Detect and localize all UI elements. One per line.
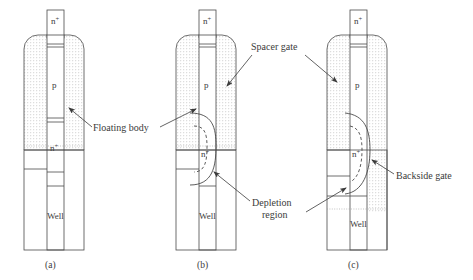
figure-container: n+ p n+ Well (a)	[0, 0, 473, 280]
callout-depletion-region-label-line1: Depletion	[252, 197, 291, 208]
panel-a-top-contact: n+	[47, 10, 64, 38]
panel-a-spacer-gate-left	[24, 35, 47, 150]
panel-c-caption: (c)	[348, 260, 359, 271]
callout-depletion-region-leader-c	[306, 188, 346, 212]
panel-b: n+ p n+ Well (b)	[176, 10, 236, 271]
panel-b-substrate-label: Well	[199, 211, 216, 221]
panel-c-pillar: p n+ Well	[350, 35, 367, 250]
panel-c-top-contact: n+	[350, 10, 367, 38]
callout-backside-gate-label: Backside gate	[396, 170, 452, 181]
panel-c-substrate-label: Well	[350, 219, 367, 229]
panel-b-spacer-gate-right	[216, 35, 236, 150]
panel-b-top-contact: n+	[199, 10, 216, 38]
panel-a-body-label: p	[52, 80, 57, 90]
panel-a-caption: (a)	[45, 260, 56, 271]
callout-depletion-region-label-line2: region	[262, 209, 288, 220]
panel-a-spacer-gate-right	[64, 35, 84, 150]
device-diagram-svg: n+ p n+ Well (a)	[0, 0, 473, 280]
callout-depletion-region: Depletion region	[214, 172, 346, 220]
callout-spacer-gate-label: Spacer gate	[251, 41, 298, 52]
callout-depletion-region-leader-b	[214, 172, 250, 201]
panel-b-caption: (b)	[197, 260, 208, 271]
panel-b-spacer-gate-left	[176, 35, 199, 150]
panel-c-spacer-gate-left	[327, 35, 350, 150]
panel-a-pillar: p n+ Well	[47, 35, 64, 250]
panel-b-pillar: p n+ Well	[199, 35, 216, 250]
callout-spacer-gate: Spacer gate	[227, 41, 337, 86]
panel-a: n+ p n+ Well (a)	[24, 10, 84, 271]
panel-c-body-label: p	[355, 80, 360, 90]
panel-c: n+ p n+ Well (c)	[327, 10, 387, 271]
callout-floating-body-label: Floating body	[93, 122, 149, 133]
panel-b-body-label: p	[204, 80, 209, 90]
panel-a-substrate-label: Well	[47, 211, 64, 221]
